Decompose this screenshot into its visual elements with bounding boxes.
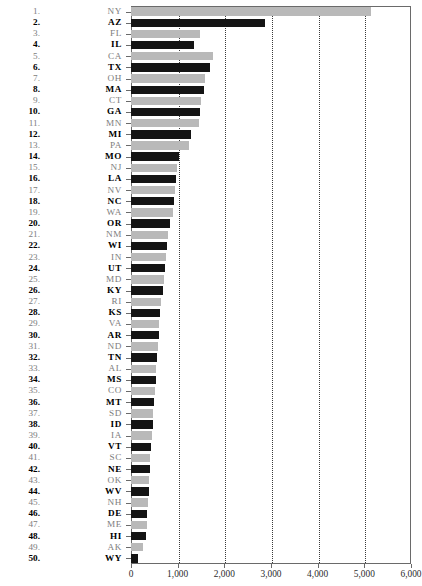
- bar: [131, 108, 200, 116]
- row-state-label: OH: [44, 73, 122, 84]
- row-state-label: ME: [44, 519, 122, 530]
- chart-title: [131, 0, 411, 2]
- bar: [131, 275, 164, 283]
- bar-row: 23.IN: [0, 252, 422, 263]
- row-state-label: IL: [44, 39, 122, 50]
- row-rank-label: 1.: [0, 6, 40, 17]
- bar-row: 47.ME: [0, 519, 422, 530]
- row-state-label: MD: [44, 274, 122, 285]
- row-state-label: NJ: [44, 162, 122, 173]
- row-rank-label: 39.: [0, 430, 40, 441]
- row-state-label: ID: [44, 419, 122, 430]
- bar: [131, 554, 138, 562]
- row-rank-label: 38.: [0, 419, 40, 430]
- row-rank-label: 28.: [0, 307, 40, 318]
- bar: [131, 331, 159, 339]
- row-state-label: MS: [44, 374, 122, 385]
- bar: [131, 208, 173, 216]
- row-rank-label: 34.: [0, 374, 40, 385]
- row-state-label: KS: [44, 307, 122, 318]
- row-state-label: NM: [44, 229, 122, 240]
- row-state-label: RI: [44, 296, 122, 307]
- bar: [131, 454, 150, 462]
- bar-row: 32.TN: [0, 352, 422, 363]
- bar: [131, 264, 165, 272]
- bar-row: 22.WI: [0, 240, 422, 251]
- row-state-label: GA: [44, 106, 122, 117]
- bar: [131, 130, 191, 138]
- row-state-label: SD: [44, 408, 122, 419]
- row-rank-label: 43.: [0, 475, 40, 486]
- row-state-label: PA: [44, 140, 122, 151]
- row-rank-label: 27.: [0, 296, 40, 307]
- bar-row: 39.IA: [0, 430, 422, 441]
- bar-row: 42.NE: [0, 464, 422, 475]
- bar-rows-container: 1.NY2.AZ3.FL4.IL5.CA6.TX7.OH8.MA9.CT10.G…: [0, 6, 422, 564]
- row-state-label: UT: [44, 263, 122, 274]
- bar-row: 13.PA: [0, 140, 422, 151]
- row-rank-label: 37.: [0, 408, 40, 419]
- bar: [131, 231, 168, 239]
- bar: [131, 253, 166, 261]
- bar-row: 16.LA: [0, 173, 422, 184]
- row-state-label: WY: [44, 553, 122, 564]
- row-rank-label: 21.: [0, 229, 40, 240]
- bar-row: 3.FL: [0, 28, 422, 39]
- row-rank-label: 49.: [0, 542, 40, 553]
- row-rank-label: 17.: [0, 185, 40, 196]
- row-rank-label: 31.: [0, 341, 40, 352]
- row-state-label: CT: [44, 95, 122, 106]
- bar: [131, 175, 176, 183]
- bar: [131, 119, 199, 127]
- row-rank-label: 24.: [0, 263, 40, 274]
- row-state-label: OK: [44, 475, 122, 486]
- row-state-label: WA: [44, 207, 122, 218]
- row-rank-label: 30.: [0, 330, 40, 341]
- bar-row: 30.AR: [0, 330, 422, 341]
- x-axis-label: 4,000: [307, 569, 328, 579]
- bar-row: 50.WY: [0, 553, 422, 564]
- bar-row: 28.KS: [0, 307, 422, 318]
- row-rank-label: 23.: [0, 252, 40, 263]
- bar-row: 36.MT: [0, 397, 422, 408]
- row-rank-label: 36.: [0, 397, 40, 408]
- row-rank-label: 50.: [0, 553, 40, 564]
- row-state-label: VT: [44, 441, 122, 452]
- x-axis-label: 1,000: [167, 569, 188, 579]
- row-rank-label: 7.: [0, 73, 40, 84]
- bar: [131, 510, 147, 518]
- row-rank-label: 29.: [0, 318, 40, 329]
- row-state-label: AZ: [44, 17, 122, 28]
- row-rank-label: 4.: [0, 39, 40, 50]
- bar-row: 38.ID: [0, 419, 422, 430]
- x-axis-tick-4000: [318, 564, 319, 568]
- row-rank-label: 18.: [0, 196, 40, 207]
- bar: [131, 141, 189, 149]
- x-axis-tick-1000: [178, 564, 179, 568]
- row-rank-label: 16.: [0, 173, 40, 184]
- row-state-label: NY: [44, 6, 122, 17]
- bar: [131, 186, 175, 194]
- row-rank-label: 44.: [0, 486, 40, 497]
- bar-row: 4.IL: [0, 39, 422, 50]
- row-rank-label: 19.: [0, 207, 40, 218]
- bar: [131, 19, 265, 27]
- row-state-label: WV: [44, 486, 122, 497]
- bar: [131, 521, 147, 529]
- bar: [131, 7, 371, 15]
- row-state-label: MT: [44, 397, 122, 408]
- bar-row: 1.NY: [0, 6, 422, 17]
- row-rank-label: 9.: [0, 95, 40, 106]
- bar-row: 8.MA: [0, 84, 422, 95]
- bar-row: 24.UT: [0, 263, 422, 274]
- bar-row: 20.OR: [0, 218, 422, 229]
- bar: [131, 41, 194, 49]
- row-rank-label: 20.: [0, 218, 40, 229]
- bar: [131, 420, 153, 428]
- bar: [131, 242, 167, 250]
- bar-row: 44.WV: [0, 486, 422, 497]
- row-state-label: AR: [44, 330, 122, 341]
- x-axis-tick-6000: [411, 564, 412, 568]
- bar-row: 49.AK: [0, 542, 422, 553]
- row-state-label: WI: [44, 240, 122, 251]
